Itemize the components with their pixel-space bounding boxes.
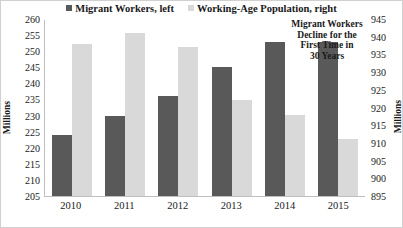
legend-item-working-age-population: Working-Age Population, right xyxy=(188,3,337,14)
right-axis-tick: 945 xyxy=(371,15,397,25)
bar-group xyxy=(98,20,151,196)
right-axis-tick: 925 xyxy=(371,86,397,96)
right-axis-tick-labels: 945940935930925920915910905900895 xyxy=(371,14,397,198)
bar-migrant-workers xyxy=(52,135,72,196)
bar-migrant-workers xyxy=(265,42,285,196)
right-axis-tick: 915 xyxy=(371,121,397,131)
bar-working-age-population xyxy=(338,139,358,196)
legend-label-migrant-workers: Migrant Workers, left xyxy=(75,3,174,14)
bar-group xyxy=(205,20,258,196)
dual-axis-bar-chart: Migrant Workers, left Working-Age Popula… xyxy=(0,0,403,228)
right-axis-tick: 935 xyxy=(371,50,397,60)
chart-annotation: Migrant Workers Decline for the First Ti… xyxy=(281,19,373,61)
left-axis-tick: 240 xyxy=(14,79,40,89)
bar-migrant-workers xyxy=(212,67,232,196)
bar-group xyxy=(45,20,98,196)
left-axis-tick: 205 xyxy=(14,192,40,202)
bar-working-age-population xyxy=(125,33,145,196)
left-axis-tick: 230 xyxy=(14,112,40,122)
annotation-line-1: Migrant Workers xyxy=(281,19,373,30)
right-axis-tick: 920 xyxy=(371,104,397,114)
category-label: 2013 xyxy=(205,199,259,215)
left-axis-tick: 215 xyxy=(14,160,40,170)
bar-group xyxy=(152,20,205,196)
legend-swatch-migrant-workers xyxy=(66,5,72,11)
legend-swatch-working-age-population xyxy=(188,5,194,11)
category-label: 2015 xyxy=(312,199,366,215)
bar-working-age-population xyxy=(232,100,252,196)
right-axis-tick: 930 xyxy=(371,68,397,78)
annotation-line-2: Decline for the xyxy=(281,30,373,41)
annotation-line-4: 30 Years xyxy=(281,51,373,62)
category-label: 2011 xyxy=(98,199,152,215)
bar-migrant-workers xyxy=(318,42,338,196)
bar-working-age-population xyxy=(285,115,305,196)
right-axis-tick: 905 xyxy=(371,157,397,167)
category-label: 2014 xyxy=(258,199,312,215)
bar-migrant-workers xyxy=(158,96,178,196)
left-axis-tick: 220 xyxy=(14,144,40,154)
right-axis-tick: 940 xyxy=(371,33,397,43)
bar-working-age-population xyxy=(72,44,92,196)
annotation-line-3: First Time in xyxy=(281,40,373,51)
legend-label-working-age-population: Working-Age Population, right xyxy=(197,3,337,14)
right-axis-tick: 895 xyxy=(371,192,397,202)
category-label: 2010 xyxy=(44,199,98,215)
left-axis-tick: 250 xyxy=(14,47,40,57)
left-axis-title: Millions xyxy=(2,101,12,134)
category-label: 2012 xyxy=(151,199,205,215)
legend-item-migrant-workers: Migrant Workers, left xyxy=(66,3,174,14)
left-axis-tick-labels: 260255250245240235230225220215210205 xyxy=(14,14,40,198)
bar-migrant-workers xyxy=(105,116,125,196)
chart-legend: Migrant Workers, left Working-Age Popula… xyxy=(0,1,403,15)
right-axis-tick: 910 xyxy=(371,139,397,149)
bar-working-age-population xyxy=(178,47,198,196)
right-axis-tick: 900 xyxy=(371,174,397,184)
left-axis-tick: 210 xyxy=(14,176,40,186)
left-axis-tick: 225 xyxy=(14,128,40,138)
left-axis-tick: 235 xyxy=(14,95,40,105)
left-axis-tick: 260 xyxy=(14,15,40,25)
left-axis-tick: 245 xyxy=(14,63,40,73)
left-axis-tick: 255 xyxy=(14,31,40,41)
category-axis-labels: 201020112012201320142015 xyxy=(44,199,365,215)
